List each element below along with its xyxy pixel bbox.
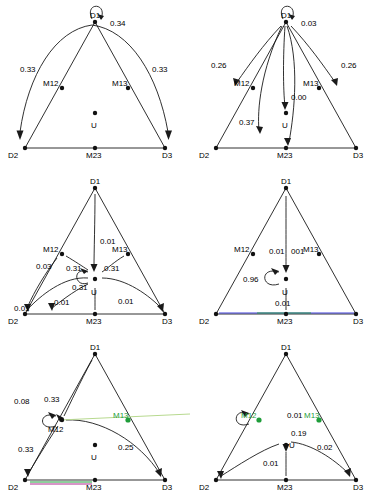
- node-d3: [163, 312, 167, 316]
- value-m13: 0.26: [341, 61, 357, 70]
- node-u: [284, 277, 288, 281]
- label-m23: M23: [277, 151, 293, 160]
- node-d3: [354, 312, 358, 316]
- curve-d1-d3: [92, 25, 168, 132]
- value-u-d3: 0.02: [317, 443, 333, 452]
- node-d2: [214, 478, 218, 482]
- arrowhead-loop: [48, 412, 56, 419]
- label-m23: M23: [86, 151, 102, 160]
- arrowhead-u: [282, 102, 289, 110]
- value-m12-d2: 0.03: [36, 262, 52, 271]
- figure-sheet: D1 D2 D3 M12 M13 M23 U 0.34 0.33 0.33: [0, 0, 381, 498]
- label-d1: D1: [90, 11, 101, 20]
- label-d2: D2: [8, 483, 19, 492]
- value-left: 0.33: [20, 65, 36, 74]
- panel-6: D1 D2 D3 M23 U 0.01 0.19 0.02 0.01 M12 M…: [191, 332, 381, 492]
- node-m23: [284, 478, 288, 482]
- label-m12: M12: [234, 245, 250, 254]
- value-right: 0.33: [152, 65, 168, 74]
- node-d1: [93, 352, 97, 356]
- arrowhead-d3: [165, 131, 172, 141]
- label-d3: D3: [353, 151, 364, 160]
- node-d2: [23, 146, 27, 150]
- node-u: [284, 443, 288, 447]
- value-m12-m13: 0.01: [287, 411, 303, 420]
- panel-3: D1 D2 D3 M12 M13 M23 U 0.01 0.31 0.31 0.…: [0, 166, 190, 326]
- arrowhead-d3: [344, 468, 351, 477]
- value-self-loop: 0.34: [110, 19, 126, 28]
- panel-5: D1 D2 D3 M12 M23 U 0.08 0.33 0.33 0.25 M…: [0, 332, 190, 492]
- label-m23: M23: [86, 317, 102, 326]
- arrowhead-u: [283, 265, 290, 273]
- value-m12-d2: 0.33: [18, 445, 34, 454]
- value-top-right: 001: [291, 247, 305, 256]
- label-d3: D3: [353, 317, 364, 326]
- node-u: [93, 111, 97, 115]
- node-d3: [163, 146, 167, 150]
- node-m12: [251, 86, 255, 90]
- value-m12-d3: 0.25: [118, 443, 134, 452]
- label-u: U: [91, 453, 97, 462]
- curve-d1-m12: [64, 360, 92, 416]
- panel-2: D1 D2 D3 M12 M13 M23 U 0.03 0.26 0.26 0.…: [191, 0, 381, 160]
- curve-d1-m12: [237, 26, 281, 82]
- value-m23-u: 0.01: [275, 299, 291, 308]
- node-m12: [60, 418, 64, 422]
- label-m12: M12: [234, 79, 250, 88]
- node-d3: [163, 478, 167, 482]
- node-u: [284, 111, 288, 115]
- label-m13: M13: [303, 79, 319, 88]
- value-u-bl: 0.31: [72, 283, 88, 292]
- node-d1: [93, 20, 97, 24]
- panel-1: D1 D2 D3 M12 M13 M23 U 0.34 0.33 0.33: [0, 0, 190, 160]
- label-d3: D3: [162, 483, 173, 492]
- label-m13: M13: [112, 79, 128, 88]
- node-u: [93, 277, 97, 281]
- node-d1: [93, 186, 97, 190]
- label-m12: M12: [43, 79, 59, 88]
- curve-m12-d3: [66, 420, 160, 474]
- panel-4: D1 D2 D3 M12 M13 M23 U 0.01 001 0.96 0.0…: [191, 166, 381, 326]
- label-m23: M23: [86, 483, 102, 492]
- value-left-corner: 0.01: [14, 304, 30, 313]
- node-m23: [93, 146, 97, 150]
- label-m13: M13: [303, 245, 319, 254]
- value-d1-m12: 0.33: [44, 395, 60, 404]
- curve-d1-m23: [287, 26, 295, 142]
- value-d1-u: 0.01: [100, 237, 116, 246]
- value-m12: 0.26: [211, 61, 227, 70]
- node-d3: [354, 146, 358, 150]
- node-d1: [284, 186, 288, 190]
- label-m13-green: M13: [304, 411, 320, 420]
- label-u: U: [289, 441, 295, 450]
- value-m13-u: 0.31: [104, 264, 120, 273]
- label-d1: D1: [90, 343, 101, 352]
- node-d1: [284, 20, 288, 24]
- label-d3: D3: [162, 317, 173, 326]
- label-d2: D2: [8, 151, 19, 160]
- value-self-loop: 0.96: [243, 275, 259, 284]
- value-d3: 0.01: [118, 297, 134, 306]
- label-m23: M23: [277, 317, 293, 326]
- value-u: 0.19: [291, 429, 307, 438]
- label-d1: D1: [281, 343, 292, 352]
- label-m23: M23: [277, 483, 293, 492]
- value-m12-u: 0.31: [66, 264, 82, 273]
- arrowhead-m13: [331, 78, 338, 86]
- label-u: U: [91, 288, 97, 297]
- label-d2: D2: [199, 151, 210, 160]
- value-u-d2: 0.01: [263, 459, 279, 468]
- node-m23: [93, 478, 97, 482]
- node-d1: [284, 352, 288, 356]
- node-u: [93, 443, 97, 447]
- node-m12: [256, 417, 261, 422]
- value-top-left: 0.01: [269, 247, 285, 256]
- node-m23: [284, 312, 288, 316]
- curve-d1-m23b: [259, 26, 282, 130]
- label-d1: D1: [281, 177, 292, 186]
- node-m12: [60, 86, 64, 90]
- label-m12: M12: [43, 245, 59, 254]
- value-self-loop: 0.03: [301, 19, 317, 28]
- node-d3: [354, 478, 358, 482]
- arrowhead-m23b: [256, 126, 263, 134]
